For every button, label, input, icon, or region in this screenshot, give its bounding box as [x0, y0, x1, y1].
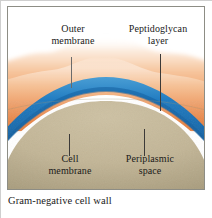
label-outer-membrane-line2: membrane	[36, 35, 110, 47]
label-peptidoglycan-line1: Peptidoglycan	[112, 23, 204, 35]
label-cell-membrane-line2: membrane	[32, 165, 108, 177]
cell-wall-illustration: Outer membrane Peptidoglycan layer Cell …	[7, 6, 205, 190]
label-peptidoglycan-layer: Peptidoglycan layer	[112, 23, 204, 46]
leader-line-outer-membrane	[71, 57, 72, 88]
leader-line-periplasmic-space	[144, 129, 145, 156]
label-periplasmic-space: Periplasmic space	[108, 153, 192, 176]
gram-negative-cell-wall-figure: Outer membrane Peptidoglycan layer Cell …	[0, 0, 212, 218]
figure-caption: Gram-negative cell wall	[8, 194, 206, 207]
label-cell-membrane: Cell membrane	[32, 153, 108, 176]
label-outer-membrane-line1: Outer	[36, 23, 110, 35]
label-periplasmic-line2: space	[108, 165, 192, 177]
leader-line-peptidoglycan-layer	[160, 54, 161, 111]
label-periplasmic-line1: Periplasmic	[108, 153, 192, 165]
label-cell-membrane-line1: Cell	[32, 153, 108, 165]
label-peptidoglycan-line2: layer	[112, 35, 204, 47]
label-outer-membrane: Outer membrane	[36, 23, 110, 46]
